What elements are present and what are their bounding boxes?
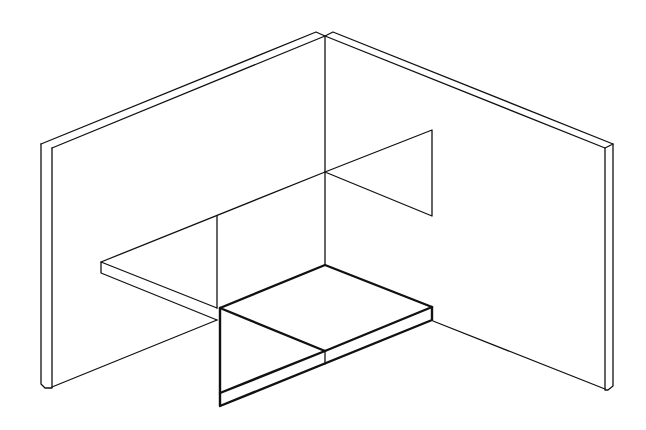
horizontal-shelf (101, 172, 325, 320)
isometric-diagram (0, 0, 646, 430)
vertical-plane-right (325, 130, 432, 216)
right-wall-panel (325, 32, 613, 390)
left-floor-line (52, 320, 217, 387)
floor-slab (220, 265, 432, 406)
right-floor-line (433, 321, 605, 389)
